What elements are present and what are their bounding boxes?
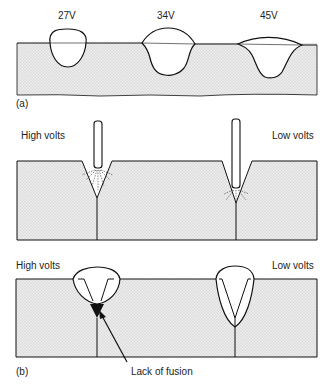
- bead-label-34v: 34V: [157, 10, 175, 21]
- low-volts-label-b: Low volts: [272, 260, 314, 271]
- plate-b-fill: [16, 279, 317, 357]
- high-volts-label-b: High volts: [16, 260, 60, 271]
- plate-middle: [17, 161, 317, 240]
- panel-b-tag: (b): [16, 366, 28, 377]
- lack-of-fusion-label: Lack of fusion: [131, 366, 193, 377]
- panel-middle: High volts Low volts: [17, 119, 317, 240]
- bead-label-45v: 45V: [260, 10, 278, 21]
- panel-b: High volts Low volts (b) Lack of fusion: [16, 260, 317, 377]
- panel-a-tag: (a): [16, 98, 28, 109]
- bead-label-27v: 27V: [58, 10, 76, 21]
- high-volts-label: High volts: [21, 130, 65, 141]
- weld-voltage-diagram: 27V 34V 45V (a) High volts Low volts: [0, 0, 330, 391]
- low-volts-label: Low volts: [272, 130, 314, 141]
- panel-a: 27V 34V 45V (a): [16, 10, 317, 109]
